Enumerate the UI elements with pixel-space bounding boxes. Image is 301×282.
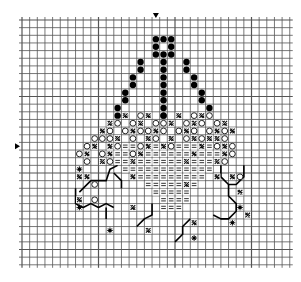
equals-stitch (176, 166, 183, 173)
equals-stitch (198, 151, 205, 158)
hatch-stitch (191, 135, 198, 142)
filled-dot-stitch (160, 89, 166, 95)
open-circle-stitch (222, 128, 228, 134)
filled-dot-stitch (160, 51, 166, 57)
filled-dot-stitch (130, 74, 136, 80)
hatch-stitch (221, 151, 228, 158)
equals-stitch (176, 204, 183, 211)
open-circle-stitch (153, 136, 159, 142)
equals-stitch (168, 196, 175, 203)
equals-stitch (137, 174, 144, 181)
equals-stitch (176, 151, 183, 158)
hatch-stitch (191, 120, 198, 127)
equals-stitch (183, 189, 190, 196)
hatch-stitch (168, 135, 175, 142)
equals-stitch (206, 151, 213, 158)
hatch-stitch (76, 196, 83, 203)
chart-title: Cross-stitch pattern chart (0, 0, 13, 1)
star-stitch (107, 227, 113, 233)
equals-stitch (168, 174, 175, 181)
hatch-stitch (99, 158, 106, 165)
hatch-stitch (137, 120, 144, 127)
hatch-stitch (244, 212, 251, 219)
equals-stitch (145, 151, 152, 158)
filled-dot-stitch (168, 44, 174, 50)
filled-dot-stitch (160, 97, 166, 103)
open-circle-stitch (76, 151, 82, 157)
left-center-arrow-icon (15, 143, 20, 149)
open-circle-stitch (237, 174, 243, 180)
hatch-stitch (214, 158, 221, 165)
equals-stitch (198, 174, 205, 181)
equals-stitch (122, 151, 129, 158)
hatch-stitch (107, 143, 114, 150)
equals-stitch (153, 143, 160, 150)
equals-stitch (176, 174, 183, 181)
equals-stitch (183, 166, 190, 173)
equals-stitch (130, 143, 137, 150)
equals-stitch (160, 189, 167, 196)
equals-stitch (137, 166, 144, 173)
hatch-stitch (214, 135, 221, 142)
open-circle-stitch (229, 143, 235, 149)
star-stitch (76, 166, 82, 172)
filled-dot-stitch (206, 105, 212, 111)
equals-stitch (160, 158, 167, 165)
filled-dot-stitch (168, 36, 174, 42)
filled-dot-stitch (191, 82, 197, 88)
open-circle-stitch (122, 128, 128, 134)
hatch-stitch (145, 135, 152, 142)
equals-stitch (183, 174, 190, 181)
hatch-stitch (183, 181, 190, 188)
equals-stitch (191, 143, 198, 150)
filled-dot-stitch (160, 105, 166, 111)
hatch-stitch (130, 158, 137, 165)
filled-dot-stitch (183, 59, 189, 65)
hatch-stitch (76, 174, 83, 181)
open-circle-stitch (199, 136, 205, 142)
open-circle-stitch (161, 128, 167, 134)
hatch-stitch (84, 151, 91, 158)
hatch-stitch (160, 143, 167, 150)
open-circle-stitch (115, 143, 121, 149)
filled-dot-stitch (153, 44, 159, 50)
filled-dot-stitch (160, 82, 166, 88)
filled-dot-stitch (160, 36, 166, 42)
equals-stitch (168, 158, 175, 165)
hatch-stitch (137, 151, 144, 158)
equals-stitch (145, 174, 152, 181)
hatch-stitch (168, 120, 175, 127)
equals-stitch (145, 158, 152, 165)
filled-dot-stitch (122, 97, 128, 103)
equals-stitch (153, 151, 160, 158)
hatch-stitch (183, 158, 190, 165)
equals-stitch (122, 158, 129, 165)
open-circle-stitch (130, 151, 136, 157)
hatch-stitch (145, 143, 152, 150)
open-circle-stitch (84, 159, 90, 165)
equals-stitch (114, 158, 121, 165)
equals-stitch (137, 158, 144, 165)
open-circle-stitch (138, 128, 144, 134)
equals-stitch (153, 189, 160, 196)
open-circle-stitch (214, 120, 220, 126)
backstitch-line (213, 184, 236, 218)
hatch-stitch (183, 128, 190, 135)
filled-dot-stitch (199, 89, 205, 95)
equals-stitch (168, 151, 175, 158)
equals-stitch (198, 158, 205, 165)
equals-stitch (122, 166, 129, 173)
filled-dot-stitch (183, 67, 189, 73)
equals-stitch (183, 151, 190, 158)
equals-stitch (153, 166, 160, 173)
star-stitch (76, 205, 82, 211)
filled-dot-stitch (199, 97, 205, 103)
open-circle-stitch (92, 197, 98, 203)
open-circle-stitch (214, 143, 220, 149)
equals-stitch (168, 181, 175, 188)
filled-dot-stitch (122, 89, 128, 95)
hatch-stitch (221, 143, 228, 150)
equals-stitch (153, 181, 160, 188)
filled-dot-stitch (191, 74, 197, 80)
hatch-stitch (99, 128, 106, 135)
